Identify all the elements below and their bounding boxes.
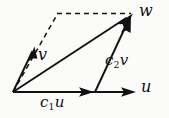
- vector-v-arrowhead: [28, 47, 37, 62]
- c1u-subscript: 1: [48, 101, 54, 112]
- c2v-vector-name: v: [120, 51, 128, 69]
- vector-label-u: u: [141, 79, 151, 95]
- vector-diagram-figure: w u v c1u c2v: [0, 0, 169, 118]
- c2v-subscript: 2: [113, 59, 119, 70]
- vector-label-c1u: c1u: [40, 95, 64, 110]
- vector-label-w: w: [139, 3, 153, 19]
- vector-label-c2v: c2v: [105, 53, 128, 68]
- vector-label-v: v: [38, 47, 47, 63]
- c1u-vector-name: u: [55, 93, 65, 111]
